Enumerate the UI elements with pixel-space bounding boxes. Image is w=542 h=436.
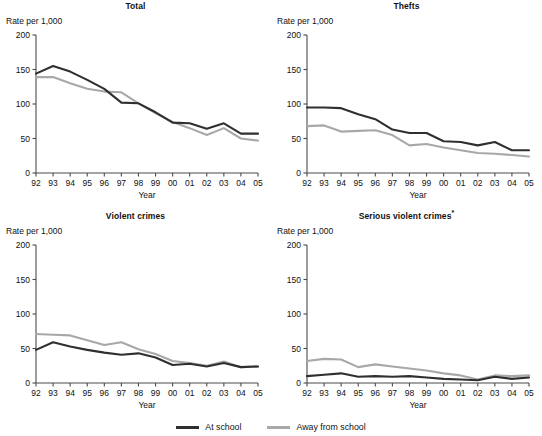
legend-item-at-school: At school <box>176 422 241 432</box>
x-tick-label: 03 <box>219 178 229 188</box>
x-tick-label: 92 <box>31 388 41 398</box>
x-tick-label: 96 <box>100 178 110 188</box>
legend-line-swatch-away-from-school <box>267 426 290 429</box>
x-tick-label: 96 <box>371 388 381 398</box>
x-tick-label: 02 <box>473 178 483 188</box>
chart-panel-serious-violent-crimes: Serious violent crimes* Rate per 1,000 0… <box>271 210 542 420</box>
x-tick-label: 99 <box>151 178 161 188</box>
y-tick-label: 0 <box>25 378 30 388</box>
x-tick-label: 92 <box>302 388 312 398</box>
x-tick-label: 93 <box>319 178 329 188</box>
x-axis-label: Year <box>307 190 529 200</box>
y-tick-label: 50 <box>292 344 302 354</box>
x-tick-label: 97 <box>117 388 127 398</box>
plot-area: 0501001502009293949596979899000102030405 <box>0 0 271 210</box>
y-tick-label: 150 <box>287 65 301 75</box>
series-line-at-school <box>307 373 529 380</box>
x-tick-label: 05 <box>524 388 534 398</box>
x-axis-label: Year <box>36 190 258 200</box>
series-line-at-school <box>36 66 258 134</box>
chart-panel-thefts: Thefts Rate per 1,000 050100150200929394… <box>271 0 542 210</box>
x-tick-label: 95 <box>353 388 363 398</box>
x-tick-label: 98 <box>134 178 144 188</box>
x-tick-label: 94 <box>65 178 75 188</box>
x-tick-label: 94 <box>336 178 346 188</box>
y-tick-label: 0 <box>296 378 301 388</box>
x-axis-label: Year <box>36 400 258 410</box>
x-tick-label: 01 <box>456 388 466 398</box>
x-tick-label: 98 <box>405 388 415 398</box>
x-tick-label: 04 <box>236 388 246 398</box>
y-tick-label: 100 <box>16 309 30 319</box>
x-tick-label: 97 <box>388 388 398 398</box>
x-tick-label: 94 <box>336 388 346 398</box>
x-tick-label: 95 <box>353 178 363 188</box>
y-tick-label: 50 <box>21 134 31 144</box>
x-tick-label: 92 <box>302 178 312 188</box>
series-line-away-from-school <box>307 125 529 156</box>
y-tick-label: 100 <box>287 99 301 109</box>
y-tick-label: 150 <box>16 275 30 285</box>
x-tick-label: 98 <box>405 178 415 188</box>
x-tick-label: 95 <box>82 178 92 188</box>
x-tick-label: 03 <box>490 388 500 398</box>
y-tick-label: 200 <box>287 240 301 250</box>
x-axis-label: Year <box>307 400 529 410</box>
plot-area: 0501001502009293949596979899000102030405 <box>271 0 542 210</box>
y-tick-label: 200 <box>16 240 30 250</box>
x-tick-label: 03 <box>219 388 229 398</box>
x-tick-label: 05 <box>253 388 263 398</box>
plot-area: 0501001502009293949596979899000102030405 <box>0 210 271 420</box>
x-tick-label: 03 <box>490 178 500 188</box>
x-tick-label: 04 <box>236 178 246 188</box>
x-tick-label: 93 <box>48 388 58 398</box>
x-tick-label: 02 <box>473 388 483 398</box>
x-tick-label: 00 <box>168 388 178 398</box>
x-tick-label: 04 <box>507 178 517 188</box>
y-tick-label: 150 <box>16 65 30 75</box>
y-tick-label: 200 <box>16 30 30 40</box>
y-tick-label: 0 <box>296 168 301 178</box>
series-line-at-school <box>36 342 258 367</box>
legend-line-swatch-at-school <box>176 426 199 429</box>
x-tick-label: 02 <box>202 388 212 398</box>
x-tick-label: 94 <box>65 388 75 398</box>
y-tick-label: 0 <box>25 168 30 178</box>
x-tick-label: 99 <box>151 388 161 398</box>
legend-item-away-from-school: Away from school <box>267 422 365 432</box>
x-tick-label: 92 <box>31 178 41 188</box>
x-tick-label: 95 <box>82 388 92 398</box>
y-tick-label: 50 <box>21 344 31 354</box>
x-tick-label: 93 <box>319 388 329 398</box>
plot-area: 0501001502009293949596979899000102030405 <box>271 210 542 420</box>
legend-label-away-from-school: Away from school <box>296 422 365 432</box>
x-tick-label: 93 <box>48 178 58 188</box>
legend-label-at-school: At school <box>205 422 241 432</box>
x-tick-label: 02 <box>202 178 212 188</box>
y-tick-label: 100 <box>287 309 301 319</box>
y-tick-label: 100 <box>16 99 30 109</box>
chart-panel-total: Total Rate per 1,000 0501001502009293949… <box>0 0 271 210</box>
y-tick-label: 200 <box>287 30 301 40</box>
x-tick-label: 00 <box>439 178 449 188</box>
x-tick-label: 01 <box>185 388 195 398</box>
x-tick-label: 97 <box>117 178 127 188</box>
x-tick-label: 99 <box>422 178 432 188</box>
x-tick-label: 01 <box>456 178 466 188</box>
x-tick-label: 96 <box>371 178 381 188</box>
y-tick-label: 50 <box>292 134 302 144</box>
x-tick-label: 00 <box>439 388 449 398</box>
x-tick-label: 04 <box>507 388 517 398</box>
x-tick-label: 99 <box>422 388 432 398</box>
x-tick-label: 05 <box>524 178 534 188</box>
x-tick-label: 98 <box>134 388 144 398</box>
x-tick-label: 01 <box>185 178 195 188</box>
y-tick-label: 150 <box>287 275 301 285</box>
crime-rate-multi-panel-figure: Total Rate per 1,000 0501001502009293949… <box>0 0 542 436</box>
chart-panel-violent-crimes: Violent crimes Rate per 1,000 0501001502… <box>0 210 271 420</box>
x-tick-label: 97 <box>388 178 398 188</box>
x-tick-label: 05 <box>253 178 263 188</box>
x-tick-label: 96 <box>100 388 110 398</box>
figure-legend: At school Away from school <box>0 418 542 436</box>
x-tick-label: 00 <box>168 178 178 188</box>
